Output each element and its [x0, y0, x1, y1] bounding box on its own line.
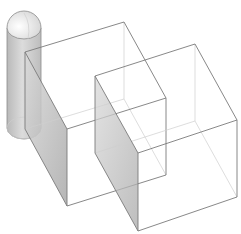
diagram-canvas [0, 0, 241, 234]
isometric-figure [0, 0, 241, 234]
